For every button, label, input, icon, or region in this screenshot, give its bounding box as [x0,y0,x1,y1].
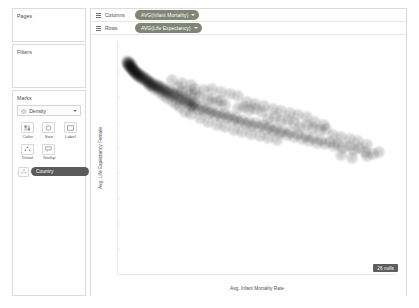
marks-button-color[interactable]: Color [17,120,38,142]
y-axis-title: Avg. Life Expectancy Female [98,127,103,189]
null-marks-badge[interactable]: 26 nulls [373,264,398,272]
mark-type-dropdown[interactable]: ◎ Density [17,105,81,116]
marks-button-spacer [60,142,81,164]
marks-card-body: ◎ Density Co [13,105,85,177]
y-tick-mark [117,71,119,72]
pages-card[interactable]: Pages [12,8,86,42]
density-mark [360,149,374,163]
marks-button-label-label: Label [65,135,76,139]
density-icon: ◎ [21,108,26,114]
columns-shelf-grip-icon [96,13,101,18]
density-mark [270,133,284,147]
color-icon [21,122,34,133]
y-tick-mark [117,173,119,174]
chevron-down-icon[interactable] [194,27,198,29]
detail-icon [21,144,34,155]
label-icon [64,122,77,133]
y-axis-title-holder: Avg. Life Expectancy Female [98,41,108,275]
tableau-worksheet: Pages Filters Marks ◎ Density [0,0,419,308]
worksheet-panel: Columns AVG(Infant Mortality) Rows AVG(L… [90,8,407,296]
density-mark [317,118,331,132]
columns-pill-infant-mortality[interactable]: AVG(Infant Mortality) [135,10,199,20]
filters-card-title: Filters [13,45,85,58]
rows-shelf-grip-icon [96,26,101,31]
rows-shelf-label: Rows [105,25,131,31]
marks-button-detail-label: Detail [22,156,33,160]
plot-canvas[interactable]: 01020304050607080900.000.020.040.060.080… [117,41,397,275]
density-mark [171,80,185,94]
marks-button-color-label: Color [22,135,33,139]
y-tick-mark [117,223,119,224]
density-mark [205,82,219,96]
marks-button-tooltip[interactable]: Tooltip [38,142,59,164]
columns-shelf[interactable]: Columns AVG(Infant Mortality) [91,9,406,22]
mark-type-value: Density [29,108,70,114]
marks-button-size[interactable]: Size [38,120,59,142]
rows-pill-life-expectancy[interactable]: AVG(Life Expectancy) [135,23,202,33]
density-mark [143,79,157,93]
marks-button-detail[interactable]: Detail [17,142,38,164]
density-scatter-plot[interactable]: Avg. Life Expectancy Female 010203040506… [91,35,406,296]
marks-card-title: Marks [13,91,85,104]
rows-shelf[interactable]: Rows AVG(Life Expectancy) [91,22,406,35]
x-axis-title: Avg. Infant Mortality Rate [117,286,397,291]
marks-pill-country[interactable]: Country [31,167,89,176]
marks-button-size-label: Size [45,135,54,139]
y-tick-mark [117,249,119,250]
chevron-down-icon[interactable] [191,14,195,16]
marks-encoding-buttons: Color Size [17,120,81,164]
chevron-down-icon [73,110,77,112]
y-tick-mark [117,274,119,275]
y-tick-mark [117,97,119,98]
columns-shelf-label: Columns [105,12,131,18]
y-tick-mark [117,198,119,199]
tooltip-icon [42,144,55,155]
left-shelf-column: Pages Filters Marks ◎ Density [12,8,86,296]
filters-card[interactable]: Filters [12,44,86,88]
marks-card[interactable]: Marks ◎ Density [12,90,86,296]
marks-button-label[interactable]: Label [60,120,81,142]
y-tick-mark [117,122,119,123]
marks-button-tooltip-label: Tooltip [43,156,56,160]
columns-pill-text: AVG(Infant Mortality) [141,13,188,18]
rows-pill-text: AVG(Life Expectancy) [141,26,191,31]
density-mark [345,151,359,165]
marks-detail-shelf-row[interactable]: Country [17,164,81,177]
detail-shelf-icon [18,167,29,177]
y-tick-mark [117,46,119,47]
y-tick-mark [117,147,119,148]
size-icon [42,122,55,133]
pages-card-title: Pages [13,9,85,22]
